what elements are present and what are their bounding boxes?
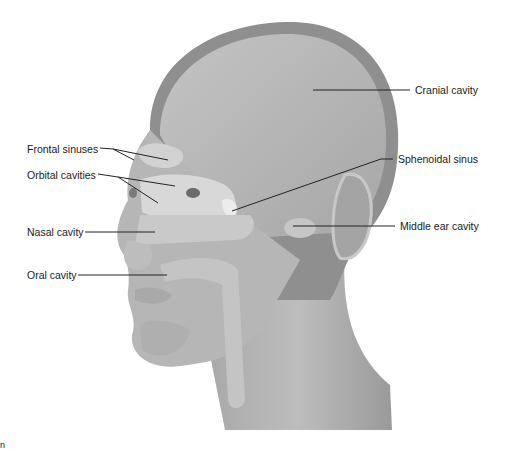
anatomy-figure: Frontal sinuses Orbital cavities Nasal c… bbox=[0, 0, 505, 450]
label-orbital-cavities: Orbital cavities bbox=[27, 169, 96, 181]
ear bbox=[333, 174, 371, 258]
label-nasal-cavity: Nasal cavity bbox=[27, 226, 84, 238]
label-oral-cavity: Oral cavity bbox=[27, 269, 77, 281]
corner-glyph: n bbox=[0, 440, 5, 450]
label-cranial-cavity: Cranial cavity bbox=[415, 84, 478, 96]
eye-left bbox=[129, 188, 137, 198]
middle-ear-region bbox=[284, 218, 316, 238]
label-sphenoidal-sinus: Sphenoidal sinus bbox=[398, 153, 478, 165]
eye-right bbox=[186, 188, 200, 198]
nose bbox=[124, 240, 152, 270]
label-middle-ear-cavity: Middle ear cavity bbox=[400, 220, 479, 232]
label-frontal-sinuses: Frontal sinuses bbox=[27, 143, 98, 155]
